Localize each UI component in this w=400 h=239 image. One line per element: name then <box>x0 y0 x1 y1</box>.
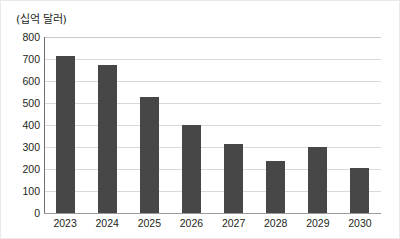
y-tick-label: 800 <box>4 31 40 43</box>
x-tick-label: 2028 <box>254 217 298 229</box>
bar-series <box>44 37 381 213</box>
x-tick-label: 2029 <box>296 217 340 229</box>
x-tick-label: 2026 <box>169 217 213 229</box>
bar-2025 <box>140 97 159 213</box>
x-tick-label: 2030 <box>338 217 382 229</box>
x-tick-label: 2024 <box>85 217 129 229</box>
bar-2026 <box>182 125 201 213</box>
y-tick-label: 200 <box>4 163 40 175</box>
bar-2029 <box>308 147 327 213</box>
x-axis-tick-labels: 20232024202520262027202820292030 <box>44 215 381 235</box>
y-tick-label: 400 <box>4 119 40 131</box>
y-axis-tick-labels: 8007006005004003002001000 <box>1 1 40 239</box>
x-tick-label: 2027 <box>212 217 256 229</box>
bar-2024 <box>98 65 117 214</box>
y-tick-label: 500 <box>4 97 40 109</box>
x-axis-line <box>44 213 381 214</box>
y-tick-label: 600 <box>4 75 40 87</box>
y-tick-label: 700 <box>4 53 40 65</box>
bar-2030 <box>350 168 369 213</box>
y-tick-label: 300 <box>4 141 40 153</box>
bar-2023 <box>56 56 75 213</box>
x-tick-label: 2025 <box>127 217 171 229</box>
y-tick-label: 100 <box>4 185 40 197</box>
y-axis-line <box>44 37 45 214</box>
x-tick-label: 2023 <box>43 217 87 229</box>
bar-2028 <box>266 161 285 213</box>
bar-2027 <box>224 144 243 213</box>
chart-figure: (십억 달러) 8007006005004003002001000 202320… <box>0 0 400 239</box>
y-tick-label: 0 <box>4 207 40 219</box>
